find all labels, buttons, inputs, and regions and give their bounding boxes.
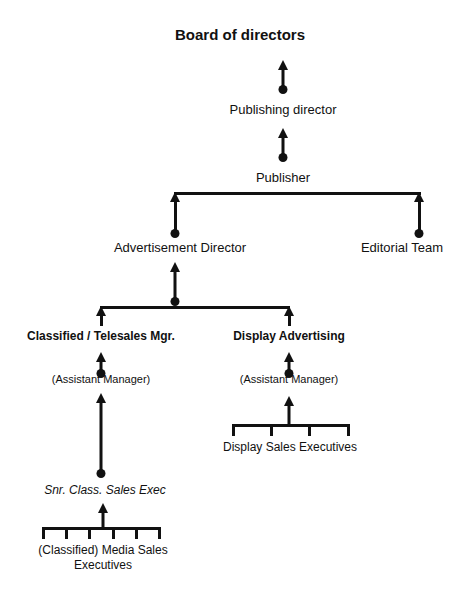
rake-tick [112, 527, 115, 539]
rake-display-sales-executives [0, 396, 468, 432]
connector-dot-icon [415, 229, 424, 238]
connector-publisher-to-publishing-director [277, 128, 289, 162]
bracket-leg [288, 314, 291, 326]
node-display-assistant-manager: (Assistant Manager) [240, 373, 338, 386]
rake-tick [88, 527, 91, 539]
node-display-advertising: Display Advertising [233, 329, 345, 343]
connector-up-to-advertisement-director [169, 262, 181, 306]
rake-tick [232, 424, 235, 436]
rake-tick [42, 527, 45, 539]
node-editorial-team: Editorial Team [361, 240, 443, 255]
rake-tick [308, 424, 311, 436]
rake-stem [288, 404, 291, 426]
rake-classified-media-sales-executives [0, 503, 468, 537]
node-advertisement-director: Advertisement Director [114, 240, 246, 255]
node-classified-telesales-manager: Classified / Telesales Mgr. [27, 329, 175, 343]
connector-advertisement-director [169, 192, 181, 238]
connector-dot-icon [171, 229, 180, 238]
connector-dot-icon [171, 297, 180, 306]
node-publishing-director: Publishing director [230, 102, 337, 117]
connector-editorial-team [413, 192, 425, 238]
rake-tick [347, 424, 350, 436]
connector-publishing-director-to-board [277, 60, 289, 94]
rake-horizontal-bar [42, 527, 161, 530]
node-classified-assistant-manager: (Assistant Manager) [52, 373, 150, 386]
rake-tick [270, 424, 273, 436]
node-display-sales-executives: Display Sales Executives [223, 440, 357, 454]
bracket-horizontal-bar [174, 192, 421, 195]
bracket-advertisement-director-children [0, 306, 468, 328]
node-classified-media-sales-executives: (Classified) Media Sales Executives [3, 543, 203, 573]
rake-tick [65, 527, 68, 539]
media-sales-line-1: (Classified) Media Sales [3, 543, 203, 558]
org-chart-diagram: Board of directors Publishing director P… [0, 0, 468, 595]
node-snr-classified-sales-exec: Snr. Class. Sales Exec [44, 483, 166, 497]
rake-horizontal-bar [232, 424, 350, 427]
rake-tick [135, 527, 138, 539]
node-board-of-directors: Board of directors [175, 26, 305, 44]
connector-dot-icon [279, 85, 288, 94]
node-publisher: Publisher [256, 170, 310, 185]
bracket-publisher-children [0, 192, 468, 238]
connector-dot-icon [97, 469, 106, 478]
media-sales-line-2: Executives [3, 558, 203, 573]
bracket-horizontal-bar [100, 306, 290, 309]
bracket-leg [100, 314, 103, 326]
rake-tick [158, 527, 161, 539]
connector-dot-icon [279, 153, 288, 162]
